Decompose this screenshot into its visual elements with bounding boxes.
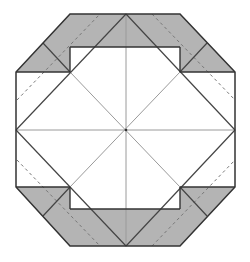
- shaded-bottom-band: [70, 209, 180, 246]
- shaded-top-band: [70, 14, 180, 47]
- center-point: [125, 129, 128, 132]
- crease-pattern-diagram: [0, 0, 250, 262]
